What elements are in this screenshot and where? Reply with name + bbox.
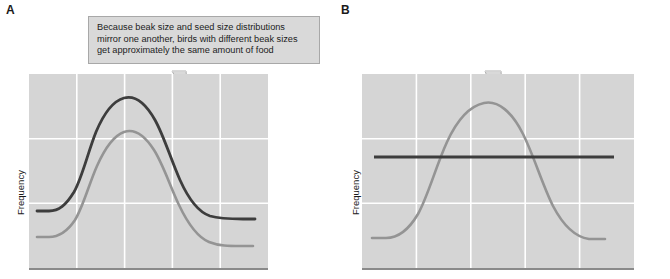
panel-b-gray-curve bbox=[372, 103, 605, 239]
panel-b-plot-area bbox=[362, 74, 634, 268]
panel-b: B Because the frequency of medium-beaked… bbox=[335, 0, 670, 279]
panel-b-plot-svg bbox=[362, 74, 634, 268]
panel-a-letter: A bbox=[6, 3, 15, 17]
panel-a-plot-svg bbox=[29, 74, 268, 268]
panel-b-letter: B bbox=[341, 3, 350, 17]
panel-a-y-axis-label: Frequency bbox=[15, 170, 26, 215]
panel-b-y-axis-label: Frequency bbox=[350, 170, 361, 215]
panel-a-callout-text: Because beak size and seed size distribu… bbox=[97, 22, 312, 57]
two-panel-figure: A Because beak size and seed size distri… bbox=[0, 0, 670, 279]
panel-b-axis-line bbox=[362, 268, 634, 270]
panel-a-dark-curve bbox=[37, 97, 255, 219]
panel-a: A Because beak size and seed size distri… bbox=[0, 0, 335, 279]
panel-a-plot-area bbox=[29, 74, 268, 268]
panel-a-callout: Because beak size and seed size distribu… bbox=[88, 16, 320, 64]
panel-a-gridlines bbox=[29, 74, 268, 268]
panel-a-axis-line bbox=[29, 268, 268, 270]
